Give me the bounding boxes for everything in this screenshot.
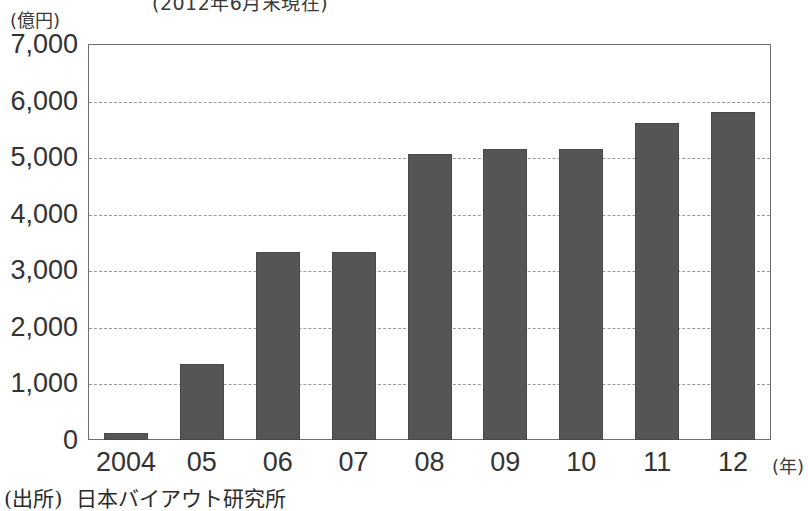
source-text: 日本バイアウト研究所 <box>76 487 286 511</box>
y-tick-label: 2,000 <box>0 311 78 342</box>
source-note: (出所)日本バイアウト研究所 <box>4 482 286 511</box>
chart-title: (2012年6月末現在) <box>152 0 328 15</box>
y-tick-label: 0 <box>0 425 78 456</box>
y-axis-tick-labels: 01,0002,0003,0004,0005,0006,0007,000 <box>0 0 80 511</box>
source-label: (出所) <box>4 487 62 511</box>
y-tick-label: 7,000 <box>0 29 78 60</box>
x-tick-label: 12 <box>718 447 748 478</box>
y-tick-label: 4,000 <box>0 198 78 229</box>
bar <box>635 123 679 440</box>
x-tick-label: 2004 <box>96 447 156 478</box>
bar-series <box>88 44 771 440</box>
y-tick-label: 6,000 <box>0 85 78 116</box>
x-axis-tick-labels: 20040506070809101112 <box>88 447 771 481</box>
bar <box>559 149 603 440</box>
bar <box>256 252 300 440</box>
bar <box>104 433 148 440</box>
bar <box>180 364 224 440</box>
bar <box>332 252 376 440</box>
x-tick-label: 05 <box>187 447 217 478</box>
x-axis-unit-label: (年) <box>772 452 804 478</box>
x-tick-label: 07 <box>339 447 369 478</box>
x-tick-label: 09 <box>490 447 520 478</box>
y-tick-label: 1,000 <box>0 368 78 399</box>
bar <box>483 149 527 440</box>
x-tick-label: 06 <box>263 447 293 478</box>
y-tick-label: 5,000 <box>0 142 78 173</box>
bar <box>711 112 755 440</box>
x-tick-label: 10 <box>566 447 596 478</box>
bar <box>408 154 452 440</box>
y-tick-label: 3,000 <box>0 255 78 286</box>
x-tick-label: 11 <box>643 447 671 478</box>
x-tick-label: 08 <box>414 447 444 478</box>
